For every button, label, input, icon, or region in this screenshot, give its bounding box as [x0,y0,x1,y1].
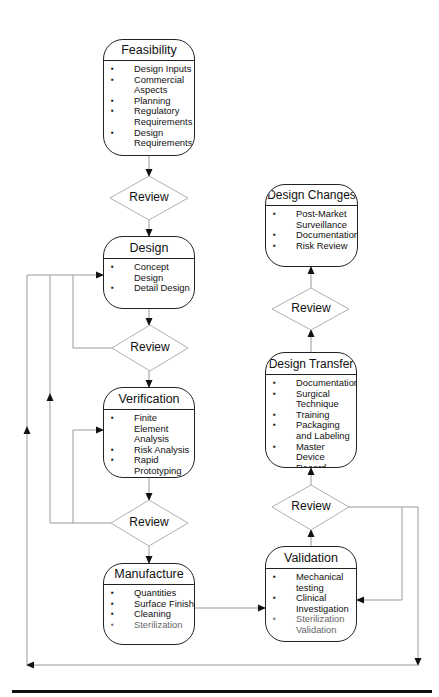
node-feasibility: Feasibility Design Inputs Commercial Asp… [103,39,195,156]
node-validation: Validation Mechanical testing Clinical I… [265,546,357,642]
feedback-review3-design [50,275,73,523]
node-manufacture: Manufacture Quantities Surface Finish Cl… [103,563,195,645]
connector-layer [0,0,439,697]
node-items: Documentation Surgical Technique Trainin… [266,375,356,468]
list-item: Post-Market Surveillance [272,209,355,230]
node-title: Design Transfer [266,353,356,375]
node-items: Design Inputs Commercial Aspects Plannin… [104,61,194,149]
node-title: Feasibility [104,40,194,61]
node-verification: Verification Finite Element Analysis Ris… [103,387,195,478]
list-item: Commercial Aspects [110,75,192,96]
list-item: Sterilization [110,620,192,631]
list-item: Documentation [272,378,354,389]
node-items: Finite Element Analysis Risk Analysis Ra… [104,410,194,477]
review-label-2: Review [110,340,190,354]
node-title: Design [104,237,194,259]
list-item: Packaging and Labeling [272,420,354,441]
list-item: Clinical Investigation [272,593,354,614]
list-item: Design Inputs [110,64,192,75]
node-design-changes: Design Changes Post-Market Surveillance … [265,184,358,267]
list-item: Concept Design [110,262,192,283]
node-items: Post-Market Surveillance Documentation R… [266,206,357,251]
list-item: Finite Element Analysis [110,413,192,445]
list-item: Risk Review [272,241,355,252]
node-design-transfer: Design Transfer Documentation Surgical T… [265,352,357,468]
list-item: Sterilization Validation [272,614,354,635]
list-item: Quantities [110,588,192,599]
bottom-rule [12,690,432,693]
up-arrow-icon [47,393,54,401]
node-title: Verification [104,388,194,410]
node-title: Manufacture [104,564,194,585]
node-title: Validation [266,547,356,569]
feedback-review4-bottom [402,507,418,665]
list-item: Master Device Record [272,442,354,468]
node-items: Quantities Surface Finish Cleaning Steri… [104,585,194,630]
node-title: Design Changes [266,185,357,206]
review-label-1: Review [109,190,189,204]
list-item: Regulatory Requirements [110,106,192,127]
node-items: Concept Design Detail Design [104,259,194,294]
up-arrow-icon [24,426,31,434]
review-label-5: Review [271,301,351,315]
list-item: Surgical Technique [272,389,354,410]
review-label-4: Review [271,499,351,513]
review-label-3: Review [109,515,189,529]
node-design: Design Concept Design Detail Design [103,236,195,309]
list-item: Rapid Prototyping [110,455,192,476]
list-item: Design Requirements [110,128,192,149]
node-items: Mechanical testing Clinical Investigatio… [266,569,356,636]
list-item: Mechanical testing [272,572,354,593]
list-item: Detail Design [110,283,192,294]
